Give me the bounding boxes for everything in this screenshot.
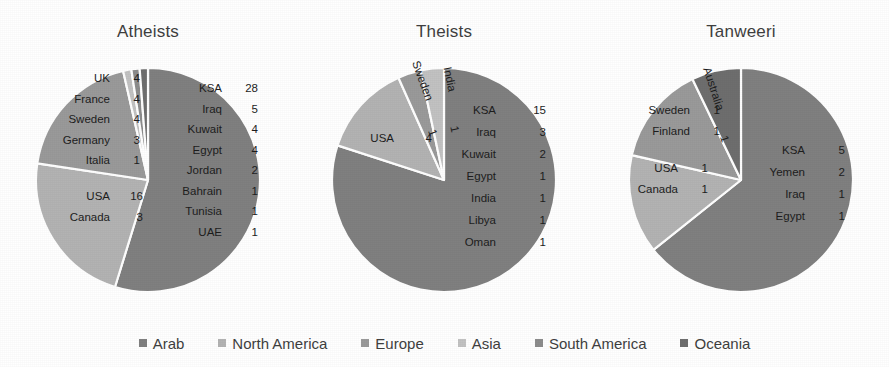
slice-entry-value: 15 (533, 104, 546, 116)
pie-stage-theists: KSA15Iraq3Kuwait2Egypt1India1Libya1Oman1… (296, 52, 592, 312)
legend-swatch-icon (680, 339, 688, 347)
pie-svg-theists: KSA15Iraq3Kuwait2Egypt1India1Libya1Oman1… (296, 52, 592, 312)
slice-entry-value: 1 (839, 188, 845, 200)
slice-entry-name: USA (86, 190, 110, 202)
slice-entry-name: Sweden (68, 113, 110, 125)
pie-panel-atheists: Atheists KSA28Iraq5Kuwait4Egypt4Jordan2B… (0, 0, 296, 320)
slice-entry-value: 1 (702, 162, 708, 174)
slice-entry-value: 2 (540, 148, 546, 160)
legend-item-south-america[interactable]: South America (535, 335, 647, 352)
slice-entry-value: 16 (130, 190, 143, 202)
pie-chart-figure: Atheists KSA28Iraq5Kuwait4Egypt4Jordan2B… (0, 0, 889, 367)
pie-slices-tanweeri (629, 68, 853, 292)
slice-entry-value: 4 (134, 93, 141, 105)
pie-panel-theists: Theists KSA15Iraq3Kuwait2Egypt1India1Lib… (296, 0, 592, 320)
slice-entry-name: Finland (652, 125, 690, 137)
legend-item-arab[interactable]: Arab (139, 335, 185, 352)
slice-entry-name: Italia (86, 154, 111, 166)
pie-svg-atheists: KSA28Iraq5Kuwait4Egypt4Jordan2Bahrain1Tu… (0, 52, 296, 312)
slice-entry-name: Egypt (467, 170, 497, 182)
pie-stage-atheists: KSA28Iraq5Kuwait4Egypt4Jordan2Bahrain1Tu… (0, 52, 296, 312)
slice-entry-value: 1 (134, 154, 140, 166)
slice-entry-name: Iraq (202, 103, 222, 115)
legend-item-asia[interactable]: Asia (458, 335, 501, 352)
legend-swatch-icon (218, 339, 226, 347)
legend-swatch-icon (361, 339, 369, 347)
slice-entry-name: Egypt (193, 144, 223, 156)
slice-entry-value: 1 (702, 183, 708, 195)
pie-title-atheists: Atheists (0, 22, 296, 42)
slice-entry-name: Germany (63, 134, 111, 146)
slice-entry-name: Kuwait (461, 148, 496, 160)
legend-label: Europe (375, 335, 423, 352)
legend-label: Arab (153, 335, 185, 352)
slice-entry-value: 28 (245, 82, 258, 94)
legend-label: Asia (472, 335, 501, 352)
slice-entry-name: Bahrain (182, 185, 222, 197)
slice-entry-name: Canada (638, 183, 679, 195)
pie-title-tanweeri: Tanweeri (593, 22, 889, 42)
slice-entry-name: Sweden (648, 104, 690, 116)
slice-entry-value: 1 (252, 205, 258, 217)
slice-entry-name: Canada (70, 211, 111, 223)
slice-entry-value: 2 (252, 164, 258, 176)
slice-entry-value: 4 (134, 113, 141, 125)
legend-label: North America (232, 335, 327, 352)
legend-swatch-icon (458, 339, 466, 347)
pie-title-theists: Theists (296, 22, 592, 42)
slice-entry-name: Libya (469, 214, 497, 226)
slice-entry-value: 1 (839, 210, 845, 222)
slice-entry-name: USA (370, 132, 394, 144)
slice-entry-value: 4 (252, 123, 259, 135)
chart-legend: ArabNorth AmericaEuropeAsiaSouth America… (0, 328, 889, 358)
slice-entry-name: Iraq (476, 126, 496, 138)
slice-entry-name: Tunisia (185, 205, 222, 217)
slice-entry-name: USA (654, 162, 678, 174)
pie-slices-atheists (36, 68, 260, 292)
slice-entry-value: 3 (137, 211, 143, 223)
slice-entry-value: 1 (540, 192, 546, 204)
legend-swatch-icon (139, 339, 147, 347)
legend-label: South America (549, 335, 647, 352)
slice-entry-name: Iraq (785, 188, 805, 200)
slice-entry-name: UAE (198, 226, 222, 238)
slice-entry-value: 4 (252, 144, 259, 156)
slice-entry-name: Egypt (776, 210, 806, 222)
slice-entry-value: 1 (252, 185, 258, 197)
pie-svg-tanweeri: KSA5Yemen2Iraq1Egypt1Sweden1Finland1USA1… (593, 52, 889, 312)
slice-entry-value: 3 (134, 134, 140, 146)
pie-panel-tanweeri: Tanweeri KSA5Yemen2Iraq1Egypt1Sweden1Fin… (593, 0, 889, 320)
slice-entry-name: India (471, 192, 497, 204)
slice-entry-value: 1 (714, 125, 720, 137)
legend-label: Oceania (694, 335, 750, 352)
slice-entry-name: Jordan (187, 164, 222, 176)
slice-entry-value: 1 (252, 226, 258, 238)
slice-entry-value: 4 (134, 72, 141, 84)
slice-entry-value: 1 (540, 236, 546, 248)
slice-entry-value: 1 (540, 214, 546, 226)
pie-slices-theists (332, 68, 556, 292)
slice-entry-name: KSA (473, 104, 496, 116)
legend-item-north-america[interactable]: North America (218, 335, 327, 352)
slice-entry-value: 5 (839, 144, 845, 156)
slice-entry-value: 2 (839, 166, 845, 178)
slice-entry-name: KSA (199, 82, 222, 94)
slice-entry-name: UK (94, 72, 110, 84)
legend-item-europe[interactable]: Europe (361, 335, 423, 352)
slice-entry-name: Kuwait (187, 123, 222, 135)
slice-entry-name: Oman (465, 236, 496, 248)
legend-swatch-icon (535, 339, 543, 347)
slice-entry-name: France (74, 93, 110, 105)
slice-entry-value: 3 (540, 126, 546, 138)
pie-stage-tanweeri: KSA5Yemen2Iraq1Egypt1Sweden1Finland1USA1… (593, 52, 889, 312)
slice-entry-name: Yemen (770, 166, 805, 178)
legend-item-oceania[interactable]: Oceania (680, 335, 750, 352)
slice-entry-value: 5 (252, 103, 258, 115)
slice-entry-name: KSA (782, 144, 805, 156)
slice-entry-value: 1 (540, 170, 546, 182)
